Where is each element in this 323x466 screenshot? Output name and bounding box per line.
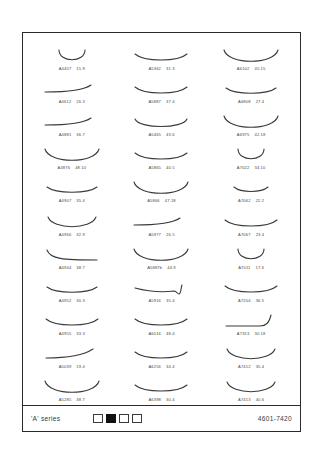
- needle-code: A6808: [238, 99, 251, 104]
- needle-label: A588737.4: [148, 99, 174, 104]
- needle-profile-cell[interactable]: A597726.5: [117, 204, 207, 237]
- swatch-2[interactable]: [106, 414, 116, 424]
- needle-size: 37.4: [166, 99, 175, 104]
- needle-profile-cell[interactable]: A490735.4: [27, 171, 117, 204]
- needle-label: A487648.10: [58, 165, 87, 170]
- needle-code: A6016: [148, 331, 161, 336]
- needle-profile-cell[interactable]: A461226.3: [27, 72, 117, 105]
- needle-label: A536231.3: [148, 66, 174, 71]
- needle-size: 42.18: [254, 132, 265, 137]
- needle-code: A5865: [148, 165, 161, 170]
- needle-profile-cell[interactable]: A680827.4: [206, 72, 296, 105]
- needle-label: A702234.10: [237, 165, 266, 170]
- needle-code: A4966: [59, 232, 72, 237]
- series-label: 'A' series: [31, 415, 93, 422]
- needle-profile-cell[interactable]: A503919.4: [27, 337, 117, 370]
- needle-profile-cell[interactable]: A601648.4: [117, 304, 207, 337]
- needle-profile-cell[interactable]: A720436.5: [206, 271, 296, 304]
- needle-code: A7011: [238, 265, 250, 270]
- needle-curve-icon: [130, 247, 192, 265]
- needle-curve-icon: [41, 180, 103, 198]
- needle-size: 36.5: [256, 298, 265, 303]
- needle-profile-cell[interactable]: A536231.3: [117, 39, 207, 72]
- swatch-4[interactable]: [132, 414, 142, 424]
- needle-curve-icon: [220, 48, 282, 66]
- needle-size: 30.4: [166, 397, 175, 402]
- needle-label: A445715.9: [59, 66, 85, 71]
- needle-label: A5887b44.9: [147, 265, 176, 270]
- needle-label: A490735.4: [59, 198, 85, 203]
- needle-profile-cell[interactable]: A487648.10: [27, 138, 117, 171]
- needle-profile-cell[interactable]: A741235.4: [206, 337, 296, 370]
- needle-profile-cell[interactable]: A731330.18: [206, 304, 296, 337]
- needle-label: A494438.7: [59, 265, 85, 270]
- needle-code: A7204: [238, 298, 251, 303]
- needle-curve-icon: [41, 379, 103, 397]
- needle-curve-icon: [220, 114, 282, 132]
- needle-profile-cell[interactable]: A494438.7: [27, 238, 117, 271]
- needle-profile-cell[interactable]: A702234.10: [206, 138, 296, 171]
- needle-curve-icon: [41, 81, 103, 99]
- needle-profile-cell[interactable]: A546543.6: [117, 105, 207, 138]
- needle-label: A586540.5: [148, 165, 174, 170]
- needle-label: A496632.9: [59, 232, 85, 237]
- needle-profile-cell[interactable]: A591635.4: [117, 271, 207, 304]
- needle-label: A701117.6: [238, 265, 264, 270]
- needle-label: A731330.18: [237, 331, 266, 336]
- needle-code: A5916: [148, 298, 161, 303]
- needle-profile-cell[interactable]: A488136.7: [27, 105, 117, 138]
- needle-code: A4944: [59, 265, 72, 270]
- swatch-3[interactable]: [119, 414, 129, 424]
- needle-size: 30.18: [254, 331, 265, 336]
- needle-profile-cell[interactable]: A528538.7: [27, 370, 117, 403]
- needle-size: 32.9: [76, 232, 85, 237]
- needle-size: 44.9: [167, 265, 176, 270]
- needle-size: 36.7: [76, 132, 85, 137]
- needle-curve-icon: [220, 247, 282, 265]
- needle-size: 40.5: [166, 165, 175, 170]
- needle-profile-grid: A445715.9A536231.3A610245.15A461226.3A58…: [23, 33, 300, 405]
- needle-profile-cell[interactable]: A697542.18: [206, 105, 296, 138]
- needle-label: A528538.7: [59, 397, 85, 402]
- needle-profile-cell[interactable]: A586540.5: [117, 138, 207, 171]
- needle-size: 19.4: [76, 364, 85, 369]
- needle-code: A5866: [147, 198, 160, 203]
- needle-size: 27.4: [256, 99, 265, 104]
- needle-profile-cell[interactable]: A496632.9: [27, 204, 117, 237]
- needle-code: A6975: [237, 132, 250, 137]
- needle-size: 43.6: [166, 132, 175, 137]
- needle-profile-cell[interactable]: A706723.4: [206, 204, 296, 237]
- needle-profile-cell[interactable]: A586647.18: [117, 171, 207, 204]
- needle-code: A5362: [148, 66, 161, 71]
- needle-curve-icon: [130, 48, 192, 66]
- needle-code: A5887b: [147, 265, 162, 270]
- needle-profile-cell[interactable]: A5887b44.9: [117, 238, 207, 271]
- needle-profile-cell[interactable]: A610245.15: [206, 39, 296, 72]
- needle-code: A4876: [58, 165, 71, 170]
- needle-label: A601648.4: [148, 331, 174, 336]
- needle-profile-cell[interactable]: A701117.6: [206, 238, 296, 271]
- needle-size: 40.6: [256, 397, 265, 402]
- needle-label: A625634.4: [148, 364, 174, 369]
- needle-curve-icon: [41, 313, 103, 331]
- needle-profile-cell[interactable]: A706222.2: [206, 171, 296, 204]
- needle-profile-cell[interactable]: A741340.6: [206, 370, 296, 403]
- needle-profile-cell[interactable]: A639830.4: [117, 370, 207, 403]
- needle-curve-icon: [130, 147, 192, 165]
- needle-code: A5465: [148, 132, 161, 137]
- swatch-1[interactable]: [93, 414, 103, 424]
- needle-curve-icon: [220, 379, 282, 397]
- needle-profile-cell[interactable]: A495230.3: [27, 271, 117, 304]
- needle-profile-cell[interactable]: A588737.4: [117, 72, 207, 105]
- needle-code: A7062: [238, 198, 251, 203]
- needle-label: A591635.4: [148, 298, 174, 303]
- needle-curve-icon: [41, 214, 103, 232]
- needle-curve-icon: [130, 114, 192, 132]
- needle-code: A4952: [59, 298, 72, 303]
- needle-label: A610245.15: [237, 66, 266, 71]
- needle-label: A741235.4: [238, 364, 264, 369]
- needle-profile-cell[interactable]: A625634.4: [117, 337, 207, 370]
- needle-profile-cell[interactable]: A495533.3: [27, 304, 117, 337]
- needle-profile-cell[interactable]: A445715.9: [27, 39, 117, 72]
- needle-code: A6256: [148, 364, 161, 369]
